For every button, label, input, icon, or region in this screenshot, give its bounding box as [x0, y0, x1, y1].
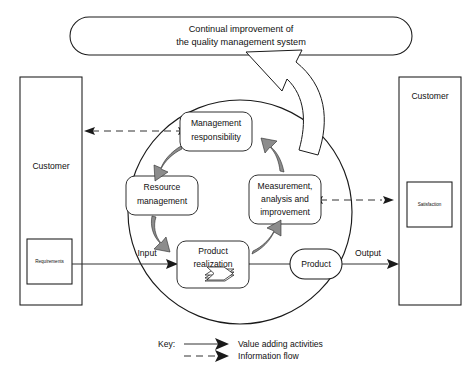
- cycle-arrow-resource-to-product-realization: [151, 216, 170, 252]
- information-flow-left: [84, 127, 189, 135]
- left-customer-label: Customer: [32, 161, 69, 171]
- product-label: Product: [301, 259, 331, 269]
- cycle-node-product-realization: Product realization: [177, 241, 249, 288]
- continual-improvement-line2: the quality management system: [176, 37, 306, 47]
- measurement-line1: Measurement,: [258, 181, 313, 191]
- left-customer-box: Customer Requirements: [20, 77, 82, 305]
- requirements-label: Requirements: [35, 259, 64, 264]
- key-label-value-adding: Value adding activities: [238, 339, 323, 349]
- management-responsibility-line1: Management: [191, 118, 242, 128]
- output-label: Output: [355, 248, 381, 258]
- measurement-line2: analysis and: [261, 194, 309, 204]
- cycle-node-measurement-analysis-improvement: Measurement, analysis and improvement: [249, 175, 321, 224]
- continual-improvement-arrow: [246, 50, 324, 155]
- continual-improvement-line1: Continual improvement of: [189, 24, 294, 34]
- arrowhead-output: [387, 259, 399, 269]
- right-customer-box: Customer Satisfaction: [399, 77, 461, 305]
- value-stream-input: Input: [72, 248, 178, 269]
- value-stream-output: Output: [342, 248, 399, 269]
- key-label-information-flow: Information flow: [238, 351, 299, 361]
- key-dashed-arrowhead: [215, 350, 229, 362]
- satisfaction-label: Satisfaction: [418, 202, 442, 207]
- product-realization-line1: Product: [198, 246, 228, 256]
- product-node: Product: [290, 249, 342, 279]
- continual-improvement-banner: Continual improvement of the quality man…: [70, 17, 412, 55]
- cycle-node-resource-management: Resource management: [126, 176, 198, 215]
- key-legend: Key: Value adding activities Information…: [158, 338, 323, 362]
- management-responsibility-line2: responsibility: [191, 132, 241, 142]
- cycle-node-management-responsibility: Management responsibility: [180, 112, 252, 151]
- continual-improvement-banner-shape: [70, 17, 412, 55]
- measurement-line3: improvement: [260, 207, 310, 217]
- cycle-arrow-product-realization-to-measurement: [252, 220, 281, 254]
- key-entry-value-adding: Value adding activities: [184, 338, 323, 350]
- cycle-arrow-measurement-to-management: [261, 138, 284, 172]
- right-customer-label: Customer: [411, 91, 448, 101]
- resource-management-line2: management: [137, 196, 188, 206]
- key-title: Key:: [158, 339, 175, 349]
- key-entry-information-flow: Information flow: [184, 350, 299, 362]
- arrowhead-right-out: [383, 196, 394, 204]
- input-label: Input: [137, 248, 157, 258]
- process-based-qms-diagram: Continual improvement of the quality man…: [0, 0, 475, 380]
- information-flow-right: [312, 196, 394, 204]
- resource-management-line1: Resource: [144, 182, 181, 192]
- diagram-canvas: Continual improvement of the quality man…: [0, 0, 475, 380]
